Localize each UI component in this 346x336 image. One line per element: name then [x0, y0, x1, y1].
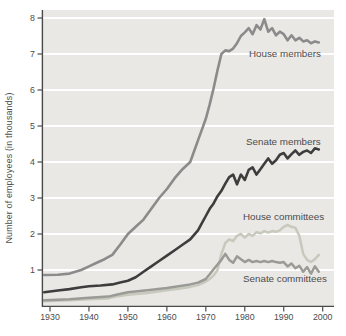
y-tick-label: 3 [30, 193, 35, 203]
x-tick-label: 1970 [196, 312, 216, 322]
y-axis-title: Number of employees (in thousands) [4, 92, 14, 243]
house-committees-label: House committees [243, 211, 324, 222]
senate-committees-label: Senate committees [243, 273, 327, 284]
x-tick-label: 2000 [313, 312, 333, 322]
x-tick-label: 1950 [118, 312, 138, 322]
x-tick-label: 1960 [157, 312, 177, 322]
y-tick-label: 2 [30, 229, 35, 239]
x-tick-label: 1930 [40, 312, 60, 322]
congress-staff-chart: 1234567819301940195019601970198019902000… [0, 0, 346, 336]
y-tick-label: 1 [30, 265, 35, 275]
x-tick-label: 1980 [235, 312, 255, 322]
y-tick-label: 8 [30, 13, 35, 23]
y-tick-label: 4 [30, 157, 35, 167]
y-tick-label: 6 [30, 85, 35, 95]
y-tick-label: 5 [30, 121, 35, 131]
x-tick-label: 1990 [274, 312, 294, 322]
senate-members-label: Senate members [246, 136, 321, 147]
x-tick-label: 1940 [79, 312, 99, 322]
y-tick-label: 7 [30, 49, 35, 59]
chart-figure: 1234567819301940195019601970198019902000… [0, 0, 346, 336]
house-members-label: House members [249, 48, 321, 59]
